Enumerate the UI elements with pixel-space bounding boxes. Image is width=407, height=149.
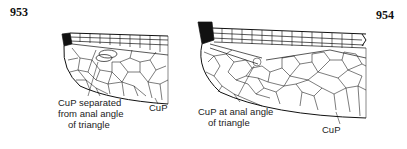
callout-line: CuP at anal angle (198, 106, 273, 117)
wing-953 (62, 33, 168, 104)
callout-line: CuP separated (58, 97, 123, 108)
callout-line: of triangle (198, 117, 273, 128)
vein-label-cup-953: CuP (149, 102, 167, 113)
callout-line: from anal angle (58, 108, 123, 119)
callout-line: of triangle (58, 119, 123, 130)
vein-label-cup-954: CuP (322, 124, 340, 135)
callout-cup-separated: CuP separated from anal angle of triangl… (58, 97, 123, 130)
callout-cup-at-anal-angle: CuP at anal angle of triangle (198, 106, 273, 128)
